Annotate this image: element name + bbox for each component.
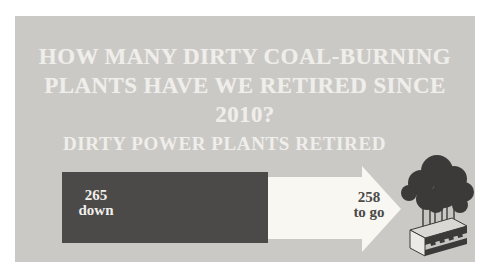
- togo-value: 258: [338, 190, 400, 205]
- togo-label: 258 to go: [338, 190, 400, 220]
- retired-label: 265 down: [65, 188, 127, 218]
- smoke-puff: [452, 197, 468, 213]
- infographic-page: HOW MANY DIRTY COAL-BURNING PLANTS HAVE …: [0, 0, 490, 278]
- coal-plant-icon: [401, 155, 474, 256]
- retired-value: 265: [65, 188, 127, 203]
- togo-caption: to go: [338, 205, 400, 220]
- smoke-puff: [427, 195, 445, 213]
- progress-arrow-chart: [15, 16, 475, 262]
- infographic-card: HOW MANY DIRTY COAL-BURNING PLANTS HAVE …: [15, 16, 475, 262]
- smoke-cloud-icon: [401, 155, 474, 213]
- factory-building-icon: [410, 218, 467, 256]
- retired-caption: down: [65, 203, 127, 218]
- smoke-puff: [401, 185, 417, 201]
